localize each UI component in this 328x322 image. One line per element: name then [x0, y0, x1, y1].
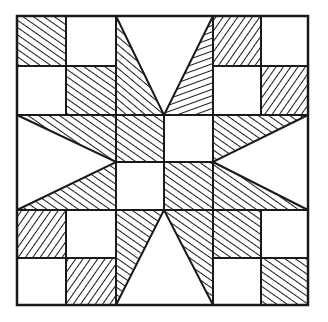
hatched-square	[164, 162, 213, 210]
hatched-square	[17, 210, 66, 258]
quilt-block-diagram	[0, 0, 328, 322]
hatched-square	[17, 16, 66, 66]
hatched-square	[261, 66, 308, 115]
hatched-square	[116, 115, 164, 162]
hatched-square	[66, 66, 116, 115]
hatched-square	[213, 16, 261, 66]
hatched-square	[213, 210, 261, 258]
hatched-square	[66, 258, 116, 305]
hatched-square	[261, 258, 308, 305]
